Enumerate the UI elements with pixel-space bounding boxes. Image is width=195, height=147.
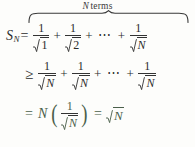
radical-sign-icon: [33, 37, 40, 51]
sqrt-icon: N: [61, 115, 79, 129]
line2-term-2-radicand: N: [79, 75, 90, 89]
line1-plus-2: +: [82, 28, 96, 44]
line1-term-2: 1 2: [65, 22, 81, 51]
radical-sign-icon: [38, 75, 45, 89]
sqrt-icon: N: [38, 75, 56, 89]
line1-term-1-denominator: 1: [33, 36, 49, 51]
radical-sign-icon: [65, 37, 72, 51]
line1-term-1-radicand: 1: [40, 37, 49, 51]
line1-term-3-numerator: 1: [135, 22, 141, 35]
line1-equals: =: [21, 28, 33, 44]
line2-term-1-denominator: N: [38, 74, 56, 89]
line1-term-2-radicand: 2: [72, 37, 81, 51]
line2-greater-equal: ≥: [25, 66, 37, 83]
equation-line-3: = N ( 1 N ) = N: [25, 100, 124, 129]
line3-result-radicand: N: [113, 107, 124, 122]
line1-term-3: 1 N: [130, 22, 148, 51]
line2-term-2-denominator: N: [72, 74, 90, 89]
equation-block: Nterms SN = 1 1 + 1: [0, 0, 195, 147]
line1-term-1-numerator: 1: [38, 22, 44, 35]
radical-sign-icon: [106, 107, 113, 122]
line1-term-1: 1 1: [33, 22, 49, 51]
line2-term-1: 1 N: [38, 60, 56, 89]
line2-term-3-numerator: 1: [144, 60, 150, 73]
paren-open: (: [51, 104, 59, 125]
radical-sign-icon: [130, 37, 137, 51]
line1-term-2-denominator: 2: [65, 36, 81, 51]
line2-term-2: 1 N: [72, 60, 90, 89]
line1-ellipsis: ⋯: [96, 27, 114, 43]
line3-numerator: 1: [67, 100, 73, 113]
line1-plus-1: +: [50, 28, 64, 44]
paren-close: ): [81, 104, 89, 125]
line3-factor-n: N: [37, 106, 49, 122]
line1-term-2-numerator: 1: [70, 22, 76, 35]
sqrt-icon: N: [130, 37, 148, 51]
line3-radicand: N: [68, 115, 79, 129]
partial-sum-symbol: SN: [6, 28, 21, 44]
equation-line-2: ≥ 1 N + 1 N: [25, 60, 157, 89]
line2-term-2-numerator: 1: [78, 60, 84, 73]
line1-term-3-radicand: N: [137, 37, 148, 51]
line2-term-3: 1 N: [138, 60, 156, 89]
line3-equals-2: =: [90, 106, 106, 122]
line2-term-3-radicand: N: [145, 75, 156, 89]
line2-ellipsis: ⋯: [105, 65, 123, 81]
sqrt-icon: N: [138, 75, 156, 89]
sqrt-icon: 1: [33, 37, 49, 51]
equation-line-1: SN = 1 1 + 1: [6, 22, 148, 51]
radical-sign-icon: [72, 75, 79, 89]
line2-plus-1: +: [57, 66, 71, 82]
line2-plus-2: +: [91, 66, 105, 82]
line3-denominator: N: [61, 114, 79, 129]
sqrt-icon: N: [72, 75, 90, 89]
line2-term-3-denominator: N: [138, 74, 156, 89]
line1-term-3-denominator: N: [130, 36, 148, 51]
line2-term-1-numerator: 1: [44, 60, 50, 73]
line2-plus-3: +: [123, 66, 137, 82]
line3-result-sqrt-icon: N: [106, 107, 124, 122]
radical-sign-icon: [138, 75, 145, 89]
line1-plus-3: +: [114, 28, 128, 44]
line2-term-1-radicand: N: [45, 75, 56, 89]
line3-equals-1: =: [25, 106, 37, 122]
radical-sign-icon: [61, 115, 68, 129]
line3-fraction: 1 N: [61, 100, 79, 129]
sqrt-icon: 2: [65, 37, 81, 51]
